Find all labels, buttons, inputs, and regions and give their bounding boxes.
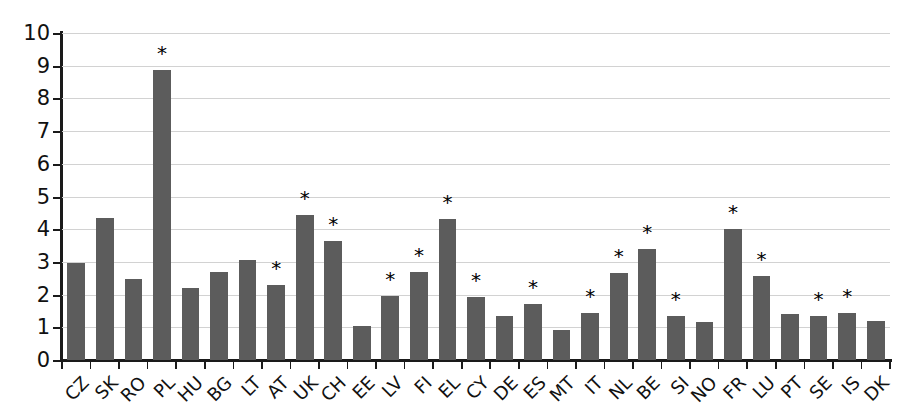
y-tick-label: 10	[4, 23, 50, 44]
x-tick-label-at: AT	[255, 372, 292, 409]
significance-star-cy: *	[471, 270, 481, 290]
gridline	[62, 66, 890, 67]
x-tick-label-ch: CH	[313, 372, 350, 409]
significance-star-si: *	[671, 289, 681, 309]
x-tick-label-pl: PL	[141, 372, 178, 409]
significance-star-fr: *	[728, 202, 738, 222]
significance-star-uk: *	[300, 188, 310, 208]
significance-star-at: *	[271, 258, 281, 278]
x-tick-label-el: EL	[427, 372, 464, 409]
y-tick-label: 2	[4, 284, 50, 305]
x-tick-mark	[233, 361, 235, 369]
bar-ro	[125, 279, 143, 360]
x-tick-mark	[889, 361, 891, 369]
x-tick-mark	[718, 361, 720, 369]
x-tick-mark	[746, 361, 748, 369]
y-tick-mark	[53, 295, 60, 297]
y-tick-mark	[53, 33, 60, 35]
bar-pl	[153, 70, 171, 360]
y-tick-mark	[53, 98, 60, 100]
bar-be	[638, 249, 656, 360]
x-tick-label-mt: MT	[541, 372, 578, 409]
bar-ch	[324, 241, 342, 360]
y-tick-label: 1	[4, 317, 50, 338]
x-tick-mark	[432, 361, 434, 369]
x-tick-label-pt: PT	[769, 372, 806, 409]
bar-es	[524, 304, 542, 360]
y-tick-label: 4	[4, 219, 50, 240]
gridline	[62, 164, 890, 165]
y-tick-label: 6	[4, 153, 50, 174]
x-tick-label-be: BE	[627, 372, 664, 409]
bar-fr	[724, 229, 742, 360]
y-tick-mark	[53, 360, 60, 362]
x-tick-label-es: ES	[512, 372, 549, 409]
x-tick-mark	[118, 361, 120, 369]
significance-star-pl: *	[157, 43, 167, 63]
y-tick-mark	[53, 131, 60, 133]
gridline	[62, 98, 890, 99]
significance-star-is: *	[842, 286, 852, 306]
bar-nl	[610, 273, 628, 360]
x-tick-label-fr: FR	[712, 372, 749, 409]
x-tick-mark	[489, 361, 491, 369]
plot-area: *****************	[62, 33, 890, 360]
significance-star-fi: *	[414, 245, 424, 265]
bar-cz	[67, 263, 85, 360]
x-tick-label-lv: LV	[370, 372, 407, 409]
x-tick-label-bg: BG	[198, 372, 235, 409]
x-tick-mark	[404, 361, 406, 369]
x-tick-label-de: DE	[484, 372, 521, 409]
x-tick-label-nl: NL	[598, 372, 635, 409]
x-tick-label-uk: UK	[284, 372, 321, 409]
bar-cy	[467, 297, 485, 360]
bar-lt	[239, 260, 257, 360]
x-tick-mark	[575, 361, 577, 369]
y-tick-label: 3	[4, 251, 50, 272]
y-tick-label: 8	[4, 88, 50, 109]
y-tick-mark	[53, 327, 60, 329]
x-tick-label-fi: FI	[398, 372, 435, 409]
x-tick-mark	[661, 361, 663, 369]
x-tick-mark	[689, 361, 691, 369]
significance-star-be: *	[642, 222, 652, 242]
bar-uk	[296, 215, 314, 361]
x-tick-label-no: NO	[684, 372, 721, 409]
x-tick-mark	[518, 361, 520, 369]
x-tick-mark	[204, 361, 206, 369]
x-tick-label-it: IT	[570, 372, 607, 409]
bar-si	[667, 316, 685, 360]
gridline	[62, 197, 890, 198]
x-tick-mark	[147, 361, 149, 369]
x-tick-mark	[347, 361, 349, 369]
bar-pt	[781, 314, 799, 360]
gridline	[62, 33, 890, 34]
x-tick-label-hu: HU	[170, 372, 207, 409]
bar-sk	[96, 218, 114, 360]
bar-lu	[753, 276, 771, 360]
bar-it	[581, 313, 599, 360]
x-tick-label-dk: DK	[855, 372, 892, 409]
x-tick-mark	[547, 361, 549, 369]
significance-star-el: *	[442, 192, 452, 212]
x-tick-label-lt: LT	[227, 372, 264, 409]
x-tick-label-ee: EE	[341, 372, 378, 409]
y-tick-mark	[53, 262, 60, 264]
bar-se	[810, 316, 828, 360]
x-tick-label-si: SI	[655, 372, 692, 409]
x-tick-label-se: SE	[798, 372, 835, 409]
x-tick-label-cy: CY	[455, 372, 492, 409]
x-tick-label-sk: SK	[84, 372, 121, 409]
x-tick-label-lu: LU	[741, 372, 778, 409]
bar-lv	[381, 296, 399, 360]
x-tick-mark	[90, 361, 92, 369]
y-tick-label: 5	[4, 186, 50, 207]
bar-bg	[210, 272, 228, 360]
bar-at	[267, 285, 285, 360]
significance-star-nl: *	[614, 246, 624, 266]
x-tick-label-is: IS	[827, 372, 864, 409]
gridline	[62, 229, 890, 230]
x-tick-mark	[832, 361, 834, 369]
bar-no	[696, 322, 714, 360]
bar-hu	[182, 288, 200, 360]
